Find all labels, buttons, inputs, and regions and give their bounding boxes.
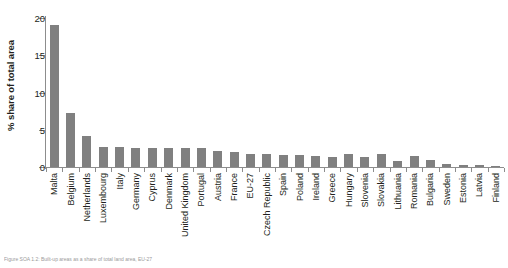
x-axis-label: Finland (488, 173, 504, 248)
x-axis-label: Slovakia (373, 173, 389, 248)
x-axis-label: Germany (128, 173, 144, 248)
x-axis-label: Bulgaria (422, 173, 438, 248)
x-axis-label-text: Bulgaria (426, 173, 435, 206)
x-axis-label: Estonia (455, 173, 471, 248)
y-axis-tick-label: 0 (15, 162, 45, 173)
x-axis-label-text: Poland (295, 173, 304, 201)
x-axis-tick (177, 168, 178, 172)
x-axis-label-text: Czech Republic (262, 173, 271, 236)
x-axis-tick (291, 168, 292, 172)
x-axis-tick (128, 168, 129, 172)
bar (410, 156, 419, 167)
bar (246, 154, 255, 167)
x-axis-label: Malta (46, 173, 62, 248)
x-axis-tick (210, 168, 211, 172)
x-axis-tick (390, 168, 391, 172)
x-axis-tick (406, 168, 407, 172)
x-axis-label-text: United Kingdom (181, 173, 190, 237)
x-axis-label: United Kingdom (177, 173, 193, 248)
x-axis-label-text: Ireland (311, 173, 320, 201)
x-axis-label: Hungary (340, 173, 356, 248)
bar (115, 147, 124, 167)
x-axis-label: Poland (291, 173, 307, 248)
bar (426, 160, 435, 167)
x-axis-label-text: Sweden (442, 173, 451, 206)
x-axis-label-text: France (230, 173, 239, 201)
bar (360, 157, 369, 167)
x-axis-label-text: Austria (213, 173, 222, 201)
x-axis-label-text: Belgium (66, 173, 75, 206)
x-axis-label: France (226, 173, 242, 248)
x-axis-label-text: Portugal (197, 173, 206, 207)
bar (197, 148, 206, 167)
x-axis-tick (226, 168, 227, 172)
x-axis-label: Sweden (439, 173, 455, 248)
x-axis-label-text: Luxembourg (99, 173, 108, 223)
bar (377, 154, 386, 167)
x-axis-tick (488, 168, 489, 172)
x-axis-label: Lithuania (390, 173, 406, 248)
x-axis-tick (79, 168, 80, 172)
bar (99, 147, 108, 167)
x-axis-tick (95, 168, 96, 172)
x-axis-label-text: EU-27 (246, 173, 255, 199)
x-axis-tick (275, 168, 276, 172)
x-axis-label-text: Lithuania (393, 173, 402, 210)
bar (491, 166, 500, 167)
bar (262, 154, 271, 167)
x-axis-tick (340, 168, 341, 172)
x-axis-label-text: Spain (279, 173, 288, 196)
x-axis-label-text: Malta (50, 173, 59, 195)
y-axis-tick-group: 05101520 (0, 0, 45, 268)
x-axis-tick (193, 168, 194, 172)
x-axis-label-group: MaltaBelgiumNetherlandsLuxembourgItalyGe… (46, 173, 504, 248)
bar (213, 151, 222, 167)
x-axis-tick (242, 168, 243, 172)
x-axis-tick (324, 168, 325, 172)
bar (328, 157, 337, 167)
x-axis-label-text: Slovenia (360, 173, 369, 208)
x-axis-label-text: Romania (410, 173, 419, 209)
x-axis-label-text: Hungary (344, 173, 353, 207)
bar (459, 165, 468, 167)
x-axis-label: Spain (275, 173, 291, 248)
x-axis-label-text: Netherlands (82, 173, 91, 222)
x-axis-tick (439, 168, 440, 172)
x-axis-tick (373, 168, 374, 172)
x-axis-label: Denmark (161, 173, 177, 248)
x-axis-label-text: Latvia (475, 173, 484, 197)
x-axis-tick (259, 168, 260, 172)
y-axis-tick-label: 20 (15, 13, 45, 24)
x-axis-label: Belgium (62, 173, 78, 248)
x-axis-label: EU-27 (242, 173, 258, 248)
x-axis-label: Greece (324, 173, 340, 248)
x-axis-label: Portugal (193, 173, 209, 248)
x-axis-tick (308, 168, 309, 172)
x-axis-tick (455, 168, 456, 172)
x-axis-label: Netherlands (79, 173, 95, 248)
bar (230, 152, 239, 167)
bar (148, 148, 157, 167)
x-axis-label: Luxembourg (95, 173, 111, 248)
bar (66, 113, 75, 167)
bar (311, 156, 320, 167)
x-axis-label-text: Italy (115, 173, 124, 190)
bar (131, 148, 140, 167)
x-axis-label: Cyprus (144, 173, 160, 248)
bar (393, 161, 402, 167)
x-axis-tick (161, 168, 162, 172)
x-axis-tick (144, 168, 145, 172)
x-axis-tick (504, 168, 505, 172)
x-axis-label-text: Denmark (164, 173, 173, 210)
bar (50, 25, 59, 167)
x-axis-tick (357, 168, 358, 172)
x-axis-tick (46, 168, 47, 172)
y-axis-tick-label: 10 (15, 87, 45, 98)
x-axis-label: Latvia (471, 173, 487, 248)
bar-series (46, 18, 504, 167)
x-axis-label: Ireland (308, 173, 324, 248)
x-axis-tick (111, 168, 112, 172)
bar (475, 165, 484, 167)
x-axis-label: Romania (406, 173, 422, 248)
x-axis-label-text: Germany (131, 173, 140, 210)
